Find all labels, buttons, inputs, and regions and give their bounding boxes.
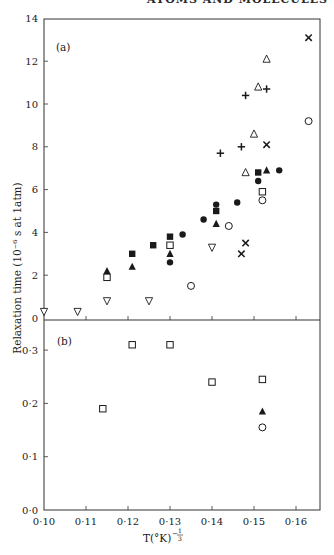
y-tick-label-b: 0·2 [22, 398, 38, 409]
plus-marker [238, 143, 245, 150]
filled-circle-marker [213, 201, 219, 207]
y-tick-label-b: 0·0 [22, 505, 38, 516]
open-circle-marker [225, 222, 232, 229]
open-circle-marker [259, 424, 266, 431]
filled-triangle-marker [103, 267, 110, 274]
open-inverted-triangle-marker [103, 298, 110, 305]
x-axis-title-exp-den: 3 [178, 535, 182, 542]
x-tick-label: 0·10 [33, 516, 55, 527]
open-square-marker [104, 274, 110, 280]
filled-triangle-marker [263, 166, 270, 173]
filled-square-marker [255, 169, 261, 175]
y-tick-label-b: 0·1 [22, 451, 38, 462]
filled-circle-marker [255, 178, 261, 184]
axis-ticks: 0·100·110·120·130·140·150·16024681012140… [22, 13, 307, 527]
x-tick-label: 0·15 [243, 516, 265, 527]
y-tick-label-a: 2 [32, 270, 38, 281]
filled-square-marker [213, 208, 219, 214]
filled-triangle-marker [129, 263, 136, 270]
open-inverted-triangle-marker [74, 308, 81, 315]
scatter-chart: 0·100·110·120·130·140·150·16024681012140… [0, 0, 334, 555]
y-tick-label-a: 6 [32, 184, 38, 195]
open-inverted-triangle-marker [40, 308, 47, 315]
x-axis-title-exp-num: 1 [178, 527, 182, 534]
panel-b-label: (b) [57, 335, 72, 347]
filled-circle-marker [167, 259, 173, 265]
plot-border [44, 19, 320, 510]
cross-marker [238, 251, 244, 257]
y-tick-label-b: 0·3 [22, 345, 38, 356]
open-circle-marker [259, 197, 266, 204]
x-axis-title: T(°K) − 1 3 [143, 527, 183, 544]
filled-square-marker [150, 242, 156, 248]
x-tick-label: 0·14 [201, 516, 223, 527]
open-triangle-marker [250, 130, 257, 137]
filled-triangle-marker [166, 250, 173, 257]
open-triangle-marker [255, 83, 262, 90]
filled-square-marker [129, 251, 135, 257]
y-axis-title: Relaxation time (10⁻⁶ s at 1atm) [11, 182, 23, 353]
y-tick-label-a: 10 [25, 99, 38, 110]
plus-marker [263, 85, 270, 92]
filled-circle-marker [179, 231, 185, 237]
filled-circle-marker [234, 199, 240, 205]
y-tick-label-a: 12 [25, 56, 38, 67]
cross-marker [305, 34, 311, 40]
open-circle-marker [305, 118, 312, 125]
x-tick-label: 0·12 [117, 516, 139, 527]
open-square-marker [100, 406, 106, 412]
plus-marker [242, 92, 249, 99]
plus-marker [217, 150, 224, 157]
filled-circle-marker [200, 216, 206, 222]
x-tick-label: 0·13 [159, 516, 181, 527]
open-square-marker [259, 376, 265, 382]
open-square-marker [167, 242, 173, 248]
x-tick-label: 0·11 [75, 516, 97, 527]
open-triangle-marker [242, 168, 249, 175]
open-triangle-marker [263, 55, 270, 62]
cross-marker [242, 240, 248, 246]
x-tick-label: 0·16 [285, 516, 307, 527]
data-points [40, 34, 312, 430]
y-tick-label-a: 14 [25, 13, 38, 24]
y-tick-label-a: 4 [32, 227, 38, 238]
filled-triangle-marker [259, 407, 266, 414]
filled-square-marker [167, 233, 173, 239]
open-square-marker [209, 379, 215, 385]
open-square-marker [167, 342, 173, 348]
open-inverted-triangle-marker [208, 244, 215, 251]
open-circle-marker [188, 282, 195, 289]
panel-a-label: (a) [56, 41, 70, 53]
cross-marker [263, 141, 269, 147]
y-tick-label-a: 0 [32, 313, 38, 324]
filled-circle-marker [276, 167, 282, 173]
y-tick-label-a: 8 [32, 141, 38, 152]
x-axis-title-main: T(°K) [143, 532, 171, 544]
open-inverted-triangle-marker [145, 298, 152, 305]
plot-frame [44, 19, 320, 510]
filled-triangle-marker [213, 220, 220, 227]
open-square-marker [129, 342, 135, 348]
open-square-marker [259, 189, 265, 195]
